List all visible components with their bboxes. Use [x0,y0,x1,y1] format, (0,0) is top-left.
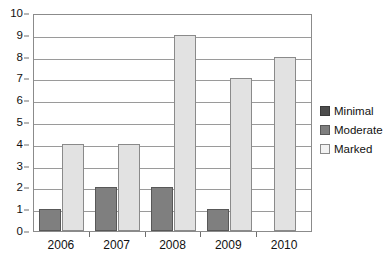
y-axis: 012345678910 [0,14,29,232]
x-tick-mark [256,232,257,237]
y-tick-label: 6 [17,95,23,107]
y-tick-mark [24,79,29,80]
y-tick-mark [24,14,29,15]
legend-label: Minimal [334,105,374,117]
x-tick-label: 2007 [103,239,130,252]
x-tick-mark [200,232,201,237]
legend-item-moderate: Moderate [320,120,380,139]
y-tick-label: 3 [17,161,23,173]
bar-2009-moderate [207,209,229,231]
x-axis: 20062007200820092010 [33,232,312,258]
bar-2006-moderate [39,209,61,231]
legend-swatch-icon [320,106,330,116]
y-tick-label: 7 [17,74,23,86]
y-tick-mark [24,144,29,145]
y-tick-label: 10 [10,8,23,20]
bar-2007-moderate [95,187,117,231]
legend-item-marked: Marked [320,139,380,158]
y-tick-label: 4 [17,139,23,151]
bar-2008-marked [174,35,196,231]
plot-area [33,14,312,232]
legend-item-minimal: Minimal [320,101,380,120]
x-tick-label: 2008 [159,239,186,252]
y-tick-label: 8 [17,52,23,64]
x-tick-mark [145,232,146,237]
x-tick-label: 2006 [48,239,75,252]
legend-swatch-icon [320,144,330,154]
y-tick-mark [24,188,29,189]
y-tick-mark [24,35,29,36]
y-tick-mark [24,232,29,233]
y-tick-label: 9 [17,30,23,42]
bar-2007-marked [118,144,140,231]
y-tick-mark [24,57,29,58]
y-tick-label: 5 [17,117,23,129]
y-tick-label: 1 [17,204,23,216]
y-tick-label: 0 [17,226,23,238]
y-tick-mark [24,166,29,167]
legend-label: Marked [334,143,372,155]
x-tick-label: 2010 [271,239,298,252]
y-tick-mark [24,101,29,102]
bar-2008-moderate [151,187,173,231]
x-tick-label: 2009 [215,239,242,252]
bar-2006-marked [62,144,84,231]
chart-legend: MinimalModerateMarked [320,101,380,158]
legend-swatch-icon [320,125,330,135]
y-tick-label: 2 [17,183,23,195]
bar-2010-marked [274,57,296,231]
y-tick-mark [24,123,29,124]
bars-layer [34,15,311,231]
x-tick-mark [89,232,90,237]
y-tick-mark [24,210,29,211]
bar-2009-marked [230,78,252,231]
legend-label: Moderate [334,124,383,136]
